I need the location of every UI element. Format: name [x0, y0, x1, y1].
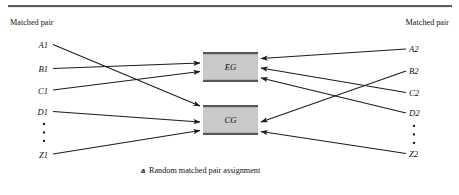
left-ellipsis-dot-2 [43, 131, 45, 133]
caption-marker: a [141, 166, 145, 175]
edge-A2-to-EG [261, 49, 406, 59]
edge-Z2-to-CG [261, 132, 406, 154]
node-label-b1: B1 [38, 64, 48, 74]
edge-B1-to-EG [53, 63, 200, 69]
group-box-eg[interactable]: EG [203, 52, 258, 82]
node-label-c2: C2 [409, 88, 420, 98]
edge-group-right [261, 49, 406, 154]
node-label-c1: C1 [38, 86, 48, 96]
right-node-labels: A2 B2 C2 D2 Z2 [408, 44, 420, 159]
figure-root: Matched pair Matched pair EG [0, 0, 459, 195]
right-ellipsis-dot-2 [413, 133, 415, 135]
group-label-cg: CG [225, 115, 238, 125]
node-label-z2: Z2 [409, 149, 419, 159]
node-label-b2: B2 [409, 66, 419, 76]
group-label-eg: EG [224, 62, 237, 72]
eg-box-top-edge [203, 52, 258, 54]
edge-Z1-to-CG [53, 131, 200, 155]
right-header-label: Matched pair [406, 18, 450, 27]
caption-text: Random matched pair assignment [149, 166, 261, 175]
right-ellipsis-dot-1 [413, 125, 415, 127]
top-divider-rule [8, 5, 452, 7]
node-label-d2: D2 [408, 108, 420, 118]
diagram-canvas: Matched pair Matched pair EG [0, 0, 459, 195]
cg-box-top-edge [203, 105, 258, 107]
left-ellipsis-dot-1 [43, 123, 45, 125]
left-ellipsis-dot-3 [43, 140, 45, 142]
edge-A1-to-CG [53, 45, 200, 107]
edge-B2-to-CG [261, 71, 406, 122]
node-label-z1: Z1 [39, 150, 48, 160]
right-ellipsis [413, 125, 415, 144]
eg-box-bottom-edge [203, 80, 258, 82]
edge-group-left [53, 45, 200, 155]
edge-D1-to-CG [53, 112, 200, 123]
left-header-label: Matched pair [10, 18, 54, 27]
cg-box-bottom-edge [203, 133, 258, 135]
edge-D2-to-EG [261, 78, 406, 113]
edge-C1-to-EG [53, 72, 200, 91]
node-label-a2: A2 [408, 44, 419, 54]
edge-C2-to-EG [261, 68, 406, 93]
group-box-cg[interactable]: CG [203, 105, 258, 135]
right-ellipsis-dot-3 [413, 142, 415, 144]
node-label-a1: A1 [37, 40, 48, 50]
left-node-labels: A1 B1 C1 D1 Z1 [36, 40, 48, 160]
node-label-d1: D1 [36, 107, 48, 117]
left-ellipsis [43, 123, 45, 142]
